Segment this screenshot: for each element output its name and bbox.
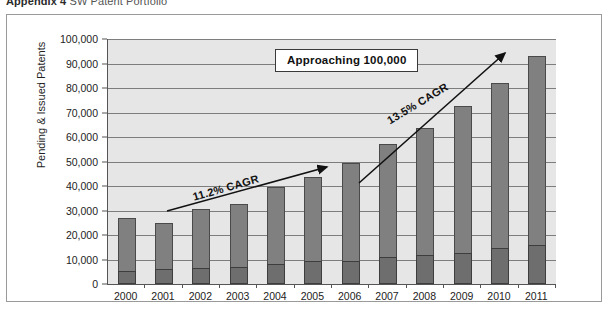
gridline: [108, 137, 556, 138]
y-axis-tick-label: 60,000: [66, 131, 98, 143]
page-title-label: Appendix 4: [6, 0, 66, 7]
y-axis-tick-label: 70,000: [66, 107, 98, 119]
y-axis-tick-label: 10,000: [66, 254, 98, 266]
y-axis-tick-label: 30,000: [66, 205, 98, 217]
x-axis-tick-mark: [443, 284, 444, 288]
x-axis-tick-label: 2008: [413, 290, 436, 302]
y-axis-tick-label: 0: [92, 278, 98, 290]
bar-segment-issued: [416, 255, 434, 284]
bar-segment-issued: [528, 245, 546, 284]
gridline: [108, 39, 556, 40]
x-axis-ticks: 2000200120022003200420052006200720082009…: [107, 284, 555, 306]
bar-segment-issued: [304, 261, 322, 284]
bar-segment-issued: [192, 268, 210, 284]
plot-area: [107, 39, 556, 285]
x-axis-tick-label: 2000: [114, 290, 137, 302]
y-axis-tick-label: 80,000: [66, 82, 98, 94]
x-axis-tick-label: 2007: [375, 290, 398, 302]
patent-portfolio-chart: Pending & Issued Patents 010,00020,00030…: [7, 15, 603, 303]
x-axis-tick-label: 2004: [263, 290, 286, 302]
x-axis-tick-mark: [219, 284, 220, 288]
bar: [230, 204, 248, 284]
x-axis-tick-label: 2011: [525, 290, 548, 302]
y-axis-tick-label: 90,000: [66, 58, 98, 70]
y-axis-ticks: 010,00020,00030,00040,00050,00060,00070,…: [7, 39, 102, 284]
gridline: [108, 113, 556, 114]
bar: [342, 163, 360, 284]
bar: [416, 128, 434, 284]
x-axis-tick-mark: [182, 284, 183, 288]
bar-segment-issued: [454, 253, 472, 284]
page-title-subtitle: SW Patent Portfolio: [66, 0, 167, 7]
x-axis-tick-mark: [518, 284, 519, 288]
gridline: [108, 260, 556, 261]
gridline: [108, 211, 556, 212]
bar-segment-issued: [379, 257, 397, 284]
bar: [491, 83, 509, 284]
bar: [528, 56, 546, 284]
x-axis-tick-mark: [480, 284, 481, 288]
bar: [155, 223, 173, 284]
x-axis-tick-mark: [294, 284, 295, 288]
bar-segment-issued: [155, 269, 173, 284]
y-axis-tick-label: 100,000: [60, 33, 98, 45]
x-axis-tick-mark: [406, 284, 407, 288]
bar: [454, 106, 472, 284]
x-axis-tick-mark: [331, 284, 332, 288]
callout-annotation: Approaching 100,000: [275, 49, 418, 72]
bar: [267, 187, 285, 284]
gridline: [108, 186, 556, 187]
x-axis-tick-label: 2003: [226, 290, 249, 302]
y-axis-tick-label: 20,000: [66, 229, 98, 241]
y-axis-tick-label: 40,000: [66, 180, 98, 192]
y-axis-tick-label: 50,000: [66, 156, 98, 168]
x-axis-tick-label: 2009: [450, 290, 473, 302]
bar-segment-issued: [230, 267, 248, 284]
x-axis-tick-mark: [256, 284, 257, 288]
bar: [192, 209, 210, 284]
bar-segment-issued: [118, 271, 136, 284]
x-axis-tick-label: 2006: [338, 290, 361, 302]
x-axis-tick-label: 2005: [301, 290, 324, 302]
x-axis-tick-mark: [368, 284, 369, 288]
gridline: [108, 162, 556, 163]
bar-segment-issued: [491, 248, 509, 284]
x-axis-tick-label: 2002: [189, 290, 212, 302]
gridline: [108, 88, 556, 89]
bar: [304, 177, 322, 284]
bar-segment-issued: [342, 261, 360, 284]
x-axis-tick-mark: [555, 284, 556, 288]
x-axis-tick-label: 2001: [151, 290, 174, 302]
gridline: [108, 235, 556, 236]
bar: [118, 218, 136, 284]
bar: [379, 144, 397, 284]
page-title: Appendix 4 SW Patent Portfolio: [6, 0, 167, 7]
x-axis-tick-mark: [144, 284, 145, 288]
bar-segment-issued: [267, 264, 285, 284]
figure-frame: Pending & Issued Patents 010,00020,00030…: [6, 14, 602, 302]
x-axis-tick-label: 2010: [487, 290, 510, 302]
